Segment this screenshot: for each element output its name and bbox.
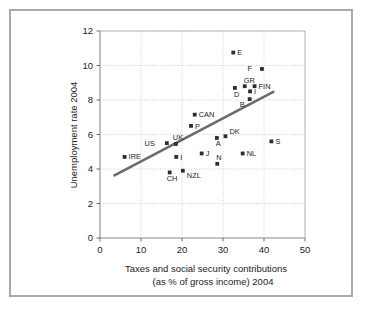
x-tick-label: 50	[300, 244, 311, 255]
data-point-label: CAN	[199, 110, 215, 119]
data-point-marker	[248, 97, 252, 101]
data-point-marker	[241, 152, 245, 156]
data-point: DK	[224, 127, 240, 138]
data-point-label: J	[206, 149, 210, 158]
data-point: NZL	[181, 169, 201, 180]
data-point-marker	[248, 89, 252, 93]
data-point-label: B	[240, 100, 245, 109]
data-point-label: GR	[244, 76, 255, 85]
data-point-marker	[224, 134, 228, 138]
data-point-label: I	[180, 153, 182, 162]
data-point: NL	[241, 149, 256, 158]
data-point-label: UK	[173, 133, 183, 142]
trend-line	[114, 91, 275, 176]
y-tick-label: 12	[82, 25, 93, 36]
data-point-label: DK	[229, 127, 239, 136]
data-point: D	[233, 86, 239, 99]
data-point-label: CH	[167, 174, 178, 183]
data-point: CAN	[193, 110, 215, 119]
data-point: I	[248, 87, 256, 96]
y-tick-label: 10	[82, 60, 93, 71]
data-point-label: E	[237, 48, 242, 57]
x-axis-title-line1: Taxes and social security contributions	[125, 263, 287, 274]
y-tick-label: 8	[88, 94, 93, 105]
figure-container: 024681012 01020304050 IREUSUKCHNZLPCANIJ…	[0, 0, 366, 309]
data-point-label: A	[216, 139, 221, 148]
data-point: A	[215, 136, 221, 148]
x-tick-label: 0	[97, 244, 102, 255]
y-tick-label: 6	[88, 129, 93, 140]
data-point-label: NL	[247, 149, 256, 158]
data-point-marker	[181, 169, 185, 173]
data-point: UK	[173, 133, 183, 146]
data-point-marker	[174, 142, 178, 146]
data-point: CH	[167, 171, 178, 184]
data-point-label: P	[195, 122, 200, 131]
trendline	[114, 91, 275, 176]
data-point-marker	[174, 155, 178, 159]
data-point-label: I	[254, 87, 256, 96]
data-point-label: F	[247, 64, 252, 73]
data-point-marker	[269, 140, 273, 144]
x-tick-label: 30	[218, 244, 229, 255]
data-point-label: N	[216, 153, 221, 162]
x-tick-label: 10	[136, 244, 147, 255]
x-tick-label: 40	[259, 244, 270, 255]
data-point-marker	[123, 155, 127, 159]
data-point: US	[145, 139, 169, 148]
y-tick-labels: 024681012	[82, 25, 93, 243]
data-point-marker	[231, 51, 235, 55]
y-tick-label: 2	[88, 198, 93, 209]
data-point: N	[215, 153, 221, 166]
data-point-label: S	[275, 137, 280, 146]
data-point-marker	[200, 152, 204, 156]
x-axis-title-line2: (as % of gross income) 2004	[153, 276, 274, 287]
gridlines	[100, 31, 305, 238]
scatter-chart: 024681012 01020304050 IREUSUKCHNZLPCANIJ…	[0, 0, 366, 309]
data-point-label: D	[234, 90, 239, 99]
data-point: E	[231, 48, 242, 57]
data-point: P	[189, 122, 200, 131]
data-point: S	[269, 137, 280, 146]
x-tick-labels: 01020304050	[97, 244, 310, 255]
x-tick-label: 20	[177, 244, 188, 255]
data-point: I	[174, 153, 182, 162]
data-point-marker	[193, 113, 197, 117]
data-point-marker	[189, 124, 193, 128]
data-point-label: NZL	[187, 171, 201, 180]
data-point: J	[200, 149, 210, 158]
data-point-marker	[165, 141, 169, 145]
data-point-label: FIN	[259, 82, 271, 91]
y-axis-title: Unemployment rate 2004	[68, 82, 79, 189]
data-point-marker	[260, 67, 264, 71]
data-point-marker	[215, 162, 219, 166]
data-point-label: IRE	[129, 152, 141, 161]
data-point: IRE	[123, 152, 141, 161]
data-point-label: US	[145, 139, 155, 148]
y-tick-label: 0	[88, 232, 93, 243]
y-tick-label: 4	[88, 163, 93, 174]
data-points: IREUSUKCHNZLPCANIJANDKNLSEFDGRFINIB	[123, 48, 281, 183]
